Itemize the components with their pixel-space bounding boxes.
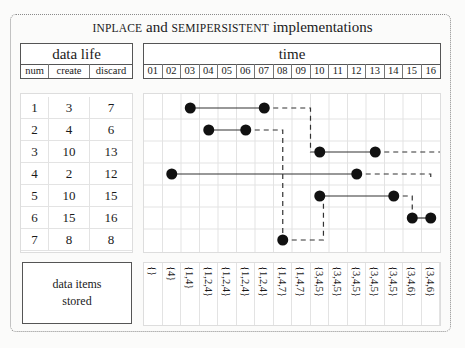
cell-create: 10 bbox=[49, 141, 90, 162]
stored-cell: {1,2,4} bbox=[200, 263, 219, 325]
cell-num: 7 bbox=[21, 229, 49, 250]
col-discard: discard bbox=[90, 64, 132, 78]
stored-set: {3,4,6} bbox=[425, 266, 436, 297]
time-tick: 02 bbox=[163, 64, 182, 78]
time-ticks: 01020304050607080910111213141516 bbox=[144, 64, 440, 78]
data-items-stored-label: data items stored bbox=[22, 262, 132, 324]
stored-set: {1,2,4} bbox=[203, 266, 214, 297]
cell-num: 1 bbox=[21, 97, 49, 118]
stored-cell: {} bbox=[144, 263, 163, 325]
timeline-grid bbox=[143, 93, 441, 253]
stored-set: {3,4,5} bbox=[388, 266, 399, 297]
stored-set: {1,2,4} bbox=[258, 266, 269, 297]
cell-create: 3 bbox=[49, 97, 90, 118]
cell-num: 4 bbox=[21, 163, 49, 184]
time-title: time bbox=[144, 44, 440, 65]
timeline-chart bbox=[144, 94, 440, 252]
stored-label-line1: data items bbox=[53, 276, 102, 293]
data-life-row: 51015 bbox=[21, 185, 132, 207]
stored-cell: {4} bbox=[163, 263, 182, 325]
stored-cell: {3,4,6} bbox=[403, 263, 422, 325]
stored-set: {1,4,7} bbox=[277, 266, 288, 297]
time-tick: 07 bbox=[255, 64, 274, 78]
time-tick: 04 bbox=[200, 64, 219, 78]
cell-create: 10 bbox=[49, 185, 90, 206]
cell-discard: 6 bbox=[90, 119, 132, 140]
data-life-row: 137 bbox=[21, 97, 132, 119]
cell-create: 8 bbox=[49, 229, 90, 250]
cell-discard: 13 bbox=[90, 141, 132, 162]
time-tick: 01 bbox=[144, 64, 163, 78]
time-tick: 09 bbox=[292, 64, 311, 78]
page-title: INPLACE and SEMIPERSISTENT implementatio… bbox=[0, 19, 465, 36]
time-tick: 05 bbox=[218, 64, 237, 78]
stored-cell: {1,4,7} bbox=[274, 263, 293, 325]
stored-set: {3,4,5} bbox=[369, 266, 380, 297]
data-life-row: 788 bbox=[21, 229, 132, 251]
stored-cell: {3,4,6} bbox=[422, 263, 441, 325]
cell-num: 6 bbox=[21, 207, 49, 228]
stored-set: {3,4,5} bbox=[314, 266, 325, 297]
stored-cell: {3,4,5} bbox=[329, 263, 348, 325]
time-tick: 16 bbox=[422, 64, 441, 78]
cell-discard: 15 bbox=[90, 185, 132, 206]
time-tick: 14 bbox=[385, 64, 404, 78]
stored-cell: {1,2,4} bbox=[255, 263, 274, 325]
stored-cell: {3,4,5} bbox=[311, 263, 330, 325]
stored-set: {1,2,4} bbox=[240, 266, 251, 297]
title-and: and bbox=[142, 19, 171, 35]
stored-cell: {3,4,5} bbox=[385, 263, 404, 325]
stored-sets-row: {}{4}{1,4}{1,2,4}{1,2,4}{1,2,4}{1,2,4}{1… bbox=[143, 262, 441, 326]
title-implementations: implementations bbox=[269, 19, 373, 35]
stored-cell: {1,4} bbox=[181, 263, 200, 325]
cell-discard: 16 bbox=[90, 207, 132, 228]
cell-create: 2 bbox=[49, 163, 90, 184]
stored-set: {4} bbox=[166, 266, 177, 281]
stored-set: {3,4,6} bbox=[406, 266, 417, 297]
stored-label-line2: stored bbox=[53, 293, 102, 310]
col-num: num bbox=[21, 64, 49, 78]
stored-set: {3,4,5} bbox=[332, 266, 343, 297]
data-life-row: 246 bbox=[21, 119, 132, 141]
cell-discard: 8 bbox=[90, 229, 132, 250]
data-life-title: data life bbox=[21, 44, 132, 65]
time-tick: 06 bbox=[237, 64, 256, 78]
stored-cell: {3,4,5} bbox=[348, 263, 367, 325]
col-create: create bbox=[49, 64, 90, 78]
time-tick: 15 bbox=[403, 64, 422, 78]
stored-cell: {1,4,7} bbox=[292, 263, 311, 325]
cell-discard: 12 bbox=[90, 163, 132, 184]
stored-cell: {3,4,5} bbox=[366, 263, 385, 325]
time-tick: 03 bbox=[181, 64, 200, 78]
time-tick: 11 bbox=[329, 64, 348, 78]
time-tick: 08 bbox=[274, 64, 293, 78]
data-life-table: 1372463101342125101561516788 bbox=[20, 93, 133, 253]
stored-cell: {1,2,4} bbox=[237, 263, 256, 325]
cell-num: 3 bbox=[21, 141, 49, 162]
data-life-row: 31013 bbox=[21, 141, 132, 163]
cell-create: 4 bbox=[49, 119, 90, 140]
cell-num: 5 bbox=[21, 185, 49, 206]
stored-set: {1,4} bbox=[184, 266, 195, 289]
data-life-header: data life num create discard bbox=[20, 43, 133, 79]
stored-set: {} bbox=[147, 266, 158, 276]
stored-set: {3,4,5} bbox=[351, 266, 362, 297]
time-tick: 12 bbox=[348, 64, 367, 78]
stored-set: {1,2,4} bbox=[221, 266, 232, 297]
cell-create: 15 bbox=[49, 207, 90, 228]
data-life-row: 61516 bbox=[21, 207, 132, 229]
data-life-columns: num create discard bbox=[21, 64, 132, 78]
data-life-row: 4212 bbox=[21, 163, 132, 185]
cell-discard: 7 bbox=[90, 97, 132, 118]
time-tick: 13 bbox=[366, 64, 385, 78]
time-header: time 01020304050607080910111213141516 bbox=[143, 43, 441, 79]
cell-num: 2 bbox=[21, 119, 49, 140]
stored-set: {1,4,7} bbox=[295, 266, 306, 297]
title-inplace: INPLACE bbox=[92, 22, 142, 34]
title-semipersistent: SEMIPERSISTENT bbox=[172, 22, 269, 34]
stored-cell: {1,2,4} bbox=[218, 263, 237, 325]
time-tick: 10 bbox=[311, 64, 330, 78]
